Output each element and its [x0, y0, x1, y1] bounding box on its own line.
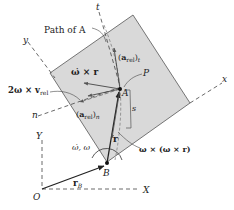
label-x-axis: x	[222, 74, 227, 84]
x-axis-line	[190, 83, 222, 103]
label-r: r	[113, 134, 118, 144]
label-s: s	[132, 104, 136, 113]
label-omega: ω̇, ω	[72, 143, 91, 152]
label-omega-dot-cross-r: ω̇ × r	[71, 67, 98, 77]
label-n-axis: n	[32, 110, 38, 120]
label-point-P: P	[142, 68, 150, 78]
label-point-B: B	[102, 168, 110, 178]
label-point-A: A	[121, 88, 129, 98]
point-B	[105, 161, 109, 165]
label-t-axis: t	[96, 2, 100, 12]
label-coriolis: 2ω × vrel	[8, 85, 48, 96]
label-r-B: rB	[73, 178, 83, 189]
y-axis-line	[28, 42, 55, 78]
label-X-axis: X	[142, 185, 150, 195]
label-centripetal: ω × (ω × r)	[139, 144, 191, 154]
label-path-of-A: Path of A	[44, 25, 86, 35]
rotating-plate-diagram: Path of A t y x n Y X O B A P s (arel)t …	[0, 0, 234, 210]
label-Y-axis: Y	[36, 131, 43, 141]
label-y-axis: y	[22, 35, 29, 45]
label-origin-O: O	[33, 192, 41, 202]
